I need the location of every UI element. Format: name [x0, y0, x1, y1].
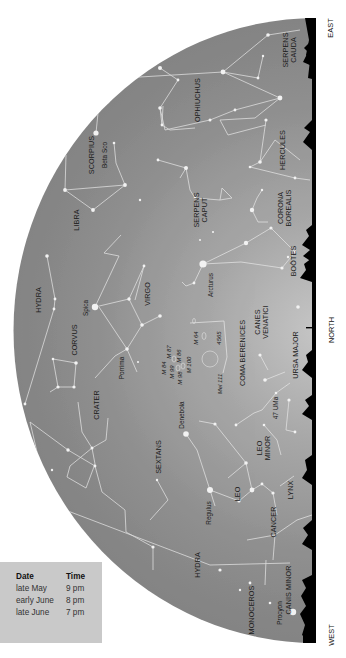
header-time: Time: [66, 572, 85, 584]
label-bootes: BOÖTES: [289, 246, 298, 277]
label-cancer: CANCER: [269, 507, 278, 538]
label-lynx: LYNX: [286, 481, 295, 500]
cell-date: late June: [16, 608, 66, 620]
time-table: Date Time late May 9 pm early June 8 pm …: [16, 572, 85, 620]
label-m86: M 86: [176, 349, 182, 363]
header-date: Date: [16, 572, 66, 584]
label-m64: M 64: [193, 331, 199, 345]
observation-time-table: Date Time late May 9 pm early June 8 pm …: [0, 562, 102, 643]
cell-time: 7 pm: [66, 608, 85, 620]
label-corona-borealis-2: BOREALIS: [284, 190, 293, 227]
label-m84: M 84: [161, 361, 167, 375]
label-serpens-cauda-2: CAUDA: [289, 37, 298, 63]
label-monoceros: MONOCEROS: [247, 585, 256, 634]
label-hydra-upper: HYDRA: [34, 287, 43, 313]
label-leo-minor-2: MINOR: [263, 436, 272, 460]
label-m99: M 99: [169, 365, 175, 379]
cell-date: late May: [16, 584, 66, 596]
label-ophiuchus: OPHIUCHUS: [193, 78, 202, 122]
label-mel111: Mel 111: [217, 374, 223, 394]
star-map: EAST NORTH WEST SERPENS CAUDA OPHIUCHUS …: [0, 0, 346, 658]
label-serpens-caput-2: CAPUT: [200, 197, 209, 222]
label-hercules: HERCULES: [278, 130, 287, 170]
table-row: late June 7 pm: [16, 608, 85, 620]
label-coma-berenices: COMA BERENICES: [238, 320, 247, 386]
cell-time: 9 pm: [66, 584, 85, 596]
sky-dome: [14, 18, 316, 643]
label-virgo: VIRGO: [143, 282, 152, 306]
cell-date: early June: [16, 596, 66, 608]
label-ursa-major: URSA MAJOR: [291, 331, 300, 379]
cell-time: 8 pm: [66, 596, 85, 608]
label-libra: LIBRA: [72, 209, 81, 230]
label-hydra-lower: HYDRA: [193, 552, 202, 578]
label-leo: LEO: [233, 486, 242, 501]
label-beta-sco: Beta Sco: [101, 142, 108, 168]
direction-west: WEST: [327, 624, 336, 646]
label-procyon: Procyon: [276, 601, 284, 625]
label-m87: M 87: [166, 345, 172, 359]
table-row: early June 8 pm: [16, 596, 85, 608]
label-canes-venatici-2: VENATICI: [261, 305, 270, 338]
label-scorpius: SCORPIUS: [87, 136, 96, 174]
label-spica: Spica: [82, 300, 90, 316]
label-m98: M 98: [177, 371, 183, 385]
label-porrima: Porrima: [118, 356, 125, 379]
label-regulus: Regulus: [205, 501, 213, 524]
table-header-row: Date Time: [16, 572, 85, 584]
label-arcturus: Arcturus: [207, 273, 214, 297]
label-denebola: Denebola: [178, 401, 185, 429]
label-crater: CRATER: [92, 390, 101, 420]
label-47uma: 47 UMa: [272, 396, 279, 419]
label-m100: M 100: [186, 356, 192, 373]
direction-east: EAST: [326, 18, 335, 38]
label-sextans: SEXTANS: [154, 440, 163, 474]
label-corvus: CORVUS: [70, 324, 79, 355]
label-canis-minor: CANIS MINOR: [284, 565, 293, 614]
label-ngc4565: 4565: [216, 331, 222, 345]
table-row: late May 9 pm: [16, 584, 85, 596]
direction-north: NORTH: [327, 317, 336, 343]
